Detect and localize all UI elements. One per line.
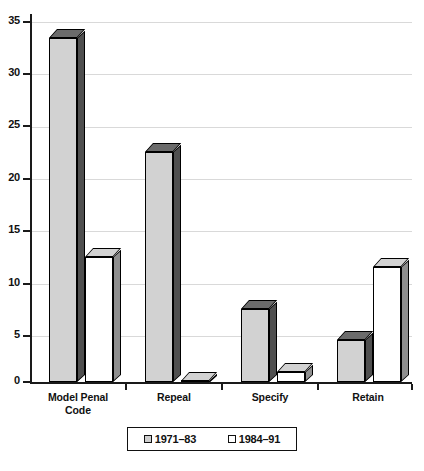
x-category-label-repeal: Repeal	[119, 391, 229, 404]
gridline-30	[30, 74, 412, 75]
gridline-20	[30, 179, 412, 180]
bar-front-face	[241, 309, 269, 382]
y-tick-label-25: 25	[0, 118, 20, 130]
y-tick-label-5: 5	[0, 328, 20, 340]
bar-retain-1971-83[interactable]	[337, 331, 365, 382]
y-tick-label-10: 10	[0, 276, 20, 288]
category-line-2: Code	[65, 404, 91, 416]
bar-front-face	[337, 340, 365, 382]
bar-repeal-1971-83[interactable]	[145, 143, 173, 382]
y-tick-mark-10	[23, 283, 31, 285]
x-tick-mark-3	[411, 384, 413, 390]
x-category-label-model-penal-code: Model Penal Code	[23, 391, 133, 417]
bar-side-face	[401, 260, 409, 382]
y-tick-mark-15	[23, 230, 31, 232]
bar-front-face	[277, 372, 305, 382]
bar-side-face	[269, 302, 277, 382]
legend-swatch-icon	[144, 435, 152, 443]
bar-repeal-1984-91[interactable]	[181, 372, 209, 382]
x-category-label-specify: Specify	[215, 391, 325, 404]
bar-side-face	[173, 145, 181, 382]
x-tick-mark-0	[125, 384, 127, 390]
bar-front-face	[145, 152, 173, 382]
category-line-1: Model Penal	[48, 391, 108, 403]
category-line-1: Specify	[252, 391, 289, 403]
legend-label: 1984–91	[239, 433, 280, 445]
bar-side-face	[77, 31, 85, 382]
bar-retain-1984-91[interactable]	[373, 258, 401, 382]
bar-specify-1984-91[interactable]	[277, 363, 305, 382]
legend-item-1971-83[interactable]: 1971–83	[144, 433, 196, 445]
legend-swatch-icon	[228, 435, 236, 443]
bar-model-penal-code-1971-83[interactable]	[49, 29, 77, 382]
bar-front-face	[49, 38, 77, 382]
x-category-label-retain: Retain	[313, 391, 423, 404]
y-axis-line	[30, 14, 32, 383]
x-tick-mark-2	[317, 384, 319, 390]
y-tick-label-20: 20	[0, 171, 20, 183]
gridline-35	[30, 22, 412, 23]
bar-side-face	[365, 333, 373, 382]
y-tick-label-0: 0	[0, 374, 20, 386]
bar-front-face	[373, 267, 401, 382]
x-tick-mark-1	[221, 384, 223, 390]
gridline-15	[30, 231, 412, 232]
bar-front-face	[85, 257, 113, 382]
legend-label: 1971–83	[155, 433, 196, 445]
y-tick-mark-35	[23, 21, 31, 23]
y-tick-mark-20	[23, 178, 31, 180]
legend-item-1984-91[interactable]: 1984–91	[228, 433, 280, 445]
bar-specify-1971-83[interactable]	[241, 300, 269, 382]
gridline-25	[30, 127, 412, 128]
y-tick-label-30: 30	[0, 66, 20, 78]
y-tick-mark-5	[23, 335, 31, 337]
y-tick-label-15: 15	[0, 223, 20, 235]
y-tick-mark-0	[23, 381, 31, 383]
bar-chart: 35 30 25 20 15 10 5 0 Model Penal Code R…	[0, 0, 424, 471]
y-tick-label-35: 35	[0, 14, 20, 26]
bar-side-face	[113, 250, 121, 382]
y-tick-mark-30	[23, 73, 31, 75]
category-line-1: Repeal	[157, 391, 191, 403]
chart-legend: 1971–83 1984–91	[127, 427, 297, 451]
bar-front-face	[181, 380, 209, 382]
category-line-1: Retain	[352, 391, 384, 403]
bar-model-penal-code-1984-91[interactable]	[85, 248, 113, 382]
y-tick-mark-25	[23, 125, 31, 127]
